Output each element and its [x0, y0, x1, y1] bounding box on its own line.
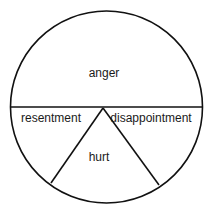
label-disappointment: disappointment [110, 111, 192, 125]
label-hurt: hurt [89, 150, 110, 164]
label-resentment: resentment [21, 111, 82, 125]
emotion-circle-diagram: anger resentment hurt disappointment [0, 0, 213, 216]
label-anger: anger [89, 66, 120, 80]
